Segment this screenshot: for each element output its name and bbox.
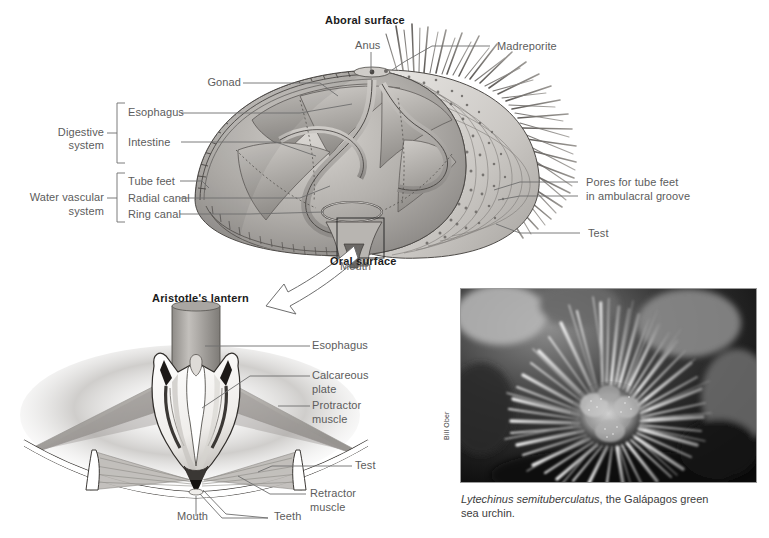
label-protractor-muscle-line2: muscle bbox=[312, 413, 347, 426]
group-water-vascular-line2: system bbox=[3, 205, 104, 218]
label-lantern-test: Test bbox=[355, 459, 376, 472]
photo-caption: Lytechinus semituberculatus, the Galápag… bbox=[461, 492, 751, 520]
label-lantern-esophagus: Esophagus bbox=[312, 339, 368, 352]
label-lantern-teeth: Teeth bbox=[274, 510, 301, 523]
label-retractor-muscle-line2: muscle bbox=[310, 501, 345, 514]
group-digestive-system-line2: system bbox=[20, 139, 104, 152]
label-ring-canal: Ring canal bbox=[128, 208, 181, 221]
label-calcareous-plate-line1: Calcareous bbox=[312, 369, 369, 382]
label-radial-canal: Radial canal bbox=[128, 192, 190, 205]
label-tube-feet: Tube feet bbox=[128, 175, 175, 188]
label-esophagus: Esophagus bbox=[128, 106, 184, 119]
label-test-top: Test bbox=[588, 227, 609, 240]
caption-line2: sea urchin. bbox=[461, 507, 515, 519]
label-calcareous-plate-line2: plate bbox=[312, 383, 336, 396]
group-water-vascular-line1: Water vascular bbox=[3, 191, 104, 204]
label-pores-tube-feet-line2: in ambulacral groove bbox=[586, 190, 690, 203]
heading-aboral-surface: Aboral surface bbox=[325, 14, 405, 27]
aristotles-lantern-illustration bbox=[0, 290, 420, 538]
label-protractor-muscle-line1: Protractor bbox=[312, 399, 361, 412]
label-mouth-top: Mouth bbox=[340, 260, 371, 273]
label-anus: Anus bbox=[355, 39, 380, 52]
label-pores-tube-feet-line1: Pores for tube feet bbox=[586, 176, 678, 189]
photo-credit: Bill Ober bbox=[443, 411, 450, 440]
caption-rest: , the Galápagos green bbox=[600, 493, 709, 505]
label-gonad: Gonad bbox=[153, 76, 241, 89]
label-madreporite: Madreporite bbox=[497, 40, 557, 53]
photo-content bbox=[461, 289, 756, 482]
label-lantern-mouth: Mouth bbox=[177, 510, 208, 523]
caption-species-name: Lytechinus semituberculatus bbox=[461, 493, 600, 505]
aboral-apex bbox=[354, 67, 390, 77]
sea-urchin-anatomy-figure: Aboral surface Oral surface Anus Madrepo… bbox=[0, 0, 769, 538]
label-intestine: Intestine bbox=[128, 136, 170, 149]
group-digestive-system-line1: Digestive bbox=[20, 126, 104, 139]
label-retractor-muscle-line1: Retractor bbox=[310, 487, 356, 500]
heading-aristotles-lantern: Aristotle's lantern bbox=[152, 292, 249, 305]
sea-urchin-photograph bbox=[460, 288, 757, 483]
